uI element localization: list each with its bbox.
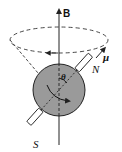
label-south: S [33,139,39,150]
rod-south-end [27,108,44,125]
precession-diagram: B μ N S θ [0,0,122,152]
label-theta: θ [61,73,66,82]
label-b-field: B [63,9,70,19]
label-moment: μ [103,52,109,63]
rod-north-end [75,53,93,72]
label-north: N [92,64,99,75]
